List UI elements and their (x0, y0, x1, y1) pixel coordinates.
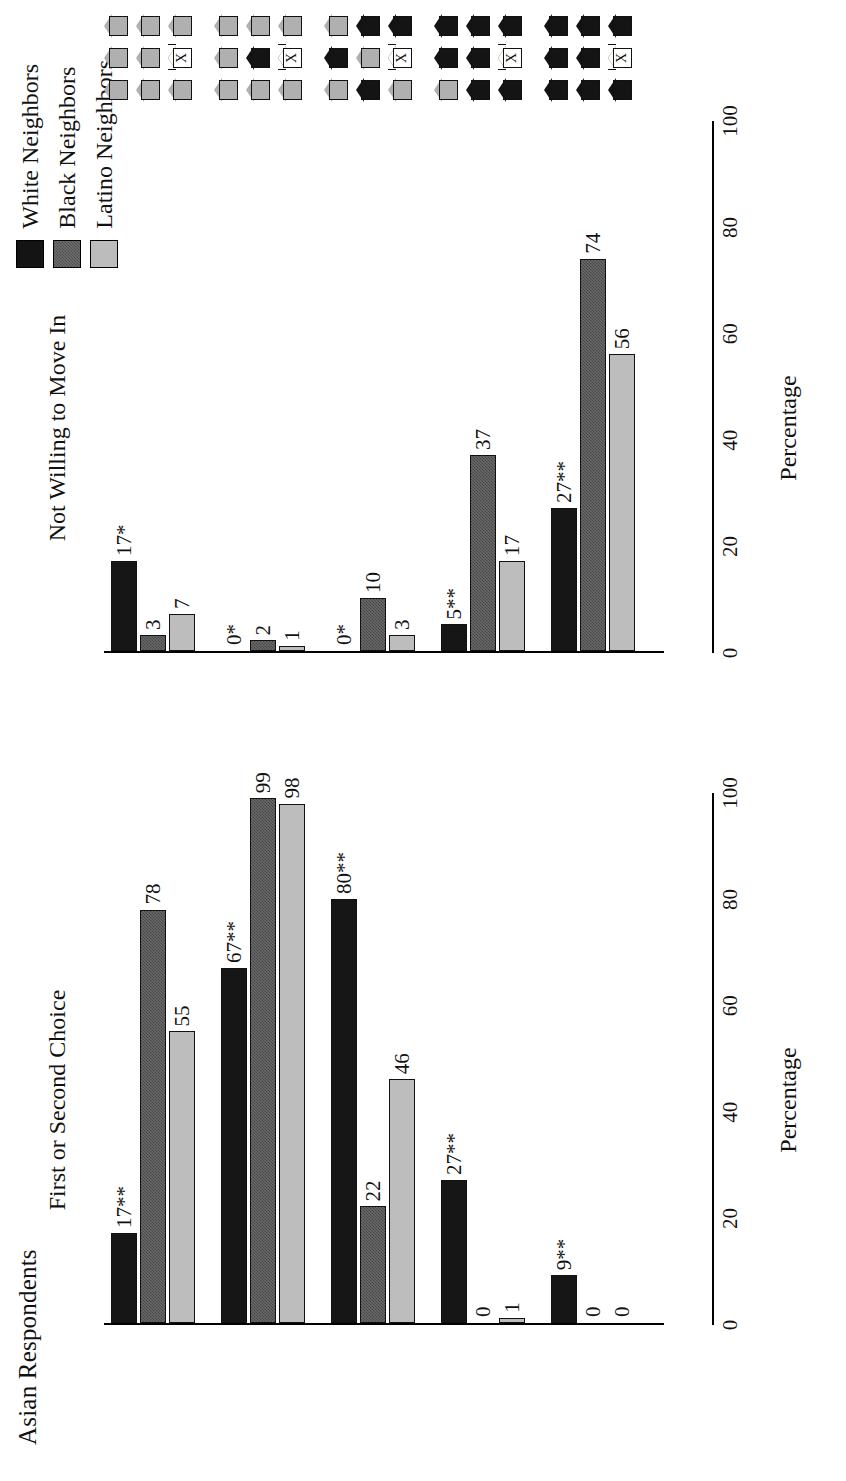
bar-value-label: 0 (610, 1307, 635, 1318)
bar-left-g5-w: 9** (551, 1275, 577, 1323)
bar-right-g3-l: 3 (389, 635, 415, 651)
legend-label-white: White Neighbors (17, 64, 44, 229)
bar-value-label: 27** (442, 1133, 467, 1175)
plot-area-left: 17**785567**999880**224627**019**00 (104, 793, 664, 1325)
house-icon-filled (576, 45, 602, 71)
bar-value-label: 2 (251, 625, 276, 636)
x-axis-tick: 0 (718, 648, 743, 659)
plot-area-right: 17*370*210*1035**371727**7456 (104, 121, 664, 653)
bar-left-g3-w: 80** (331, 899, 357, 1323)
page-title: Asian Respondents (14, 1249, 42, 1445)
bar-value-label: 5** (442, 588, 467, 620)
house-icon-gray (214, 13, 240, 39)
bar-value-label: 1 (500, 1302, 525, 1313)
bar-group: 17**7855 (108, 793, 204, 1323)
bar-value-label: 9** (552, 1239, 577, 1271)
bar-value-label: 3 (390, 620, 415, 631)
bar-value-label: 74 (581, 233, 606, 254)
bar-value-label: 98 (280, 778, 305, 799)
pictogram-grid-2 (214, 7, 310, 103)
bar-left-g3-l: 46 (389, 1079, 415, 1323)
house-icon-gray (136, 45, 162, 71)
house-icon-gray (168, 77, 194, 103)
house-icon-filled (356, 77, 382, 103)
house-icon-gray (136, 77, 162, 103)
bar-left-g1-l: 55 (169, 1032, 195, 1324)
bar-group: 67**9998 (218, 793, 314, 1323)
house-icon-filled (466, 77, 492, 103)
panel-heading-left: First or Second Choice (44, 789, 71, 1411)
house-icon-gray (324, 13, 350, 39)
bar-right-g4-b: 37 (470, 455, 496, 651)
house-icon-gray (434, 77, 460, 103)
bar-value-label: 55 (170, 1006, 195, 1027)
pictogram-grid-3 (324, 7, 420, 103)
x-axis-tick: 40 (718, 430, 743, 451)
x-axis-tick: 20 (718, 536, 743, 557)
bar-left-g4-w: 27** (441, 1180, 467, 1323)
bar-right-g2-l: 1 (279, 646, 305, 651)
house-icon-filled (498, 77, 524, 103)
x-axis-right: 020406080100 (712, 121, 714, 653)
house-icon-filled (608, 13, 634, 39)
bar-right-g1-b: 3 (140, 635, 166, 651)
x-axis-tick: 100 (718, 777, 743, 809)
bar-group: 9**00 (548, 793, 644, 1323)
bar-value-label: 7 (170, 598, 195, 609)
house-icon-respondent (278, 45, 304, 71)
bar-value-label: 17* (112, 524, 137, 556)
pictogram-grid-5 (544, 7, 640, 103)
bar-value-label: 0 (471, 1307, 496, 1318)
legend-item-white: White Neighbors (16, 60, 44, 268)
bar-value-label: 99 (251, 772, 276, 793)
bar-group: 5**3717 (438, 121, 534, 651)
bar-right-g2-b: 2 (250, 640, 276, 651)
x-axis-left: 020406080100 (712, 793, 714, 1325)
bar-value-label: 0* (222, 624, 247, 645)
bar-group: 27**7456 (548, 121, 644, 651)
panel-first-or-second-choice: First or Second Choice 17**785567**99988… (96, 789, 736, 1411)
bar-value-label: 80** (332, 852, 357, 894)
bar-value-label: 27** (552, 461, 577, 503)
house-icon-filled (434, 45, 460, 71)
bar-right-g4-w: 5** (441, 625, 467, 652)
bar-left-g2-b: 99 (250, 798, 276, 1323)
bar-value-label: 17 (500, 535, 525, 556)
x-axis-tick: 60 (718, 323, 743, 344)
pictogram-grid-4 (434, 7, 530, 103)
house-icon-gray (214, 45, 240, 71)
bar-group: 27**01 (438, 793, 534, 1323)
house-icon-gray (356, 45, 382, 71)
bar-value-label: 78 (141, 884, 166, 905)
house-icon-filled (544, 77, 570, 103)
bar-value-label: 3 (141, 620, 166, 631)
house-icon-filled (466, 13, 492, 39)
bar-right-g5-l: 56 (609, 354, 635, 651)
bar-left-g1-b: 78 (140, 910, 166, 1323)
house-icon-filled (246, 45, 272, 71)
x-axis-label-right: Percentage (775, 117, 802, 739)
panel-heading-right: Not Willing to Move In (44, 117, 71, 739)
bar-value-label: 1 (280, 630, 305, 641)
bar-right-g5-b: 74 (580, 259, 606, 651)
bar-value-label: 46 (390, 1053, 415, 1074)
bar-right-g5-w: 27** (551, 508, 577, 651)
bar-left-g2-l: 98 (279, 804, 305, 1323)
bar-right-g1-w: 17* (111, 561, 137, 651)
x-axis-label-left: Percentage (775, 789, 802, 1411)
house-icon-gray (388, 77, 414, 103)
house-icon-filled (576, 13, 602, 39)
bar-value-label: 22 (361, 1180, 386, 1201)
x-axis-tick: 0 (718, 1320, 743, 1331)
house-icon-filled (544, 45, 570, 71)
house-icon-respondent (388, 45, 414, 71)
house-icon-gray (168, 13, 194, 39)
x-axis-tick: 80 (718, 217, 743, 238)
x-axis-tick: 80 (718, 889, 743, 910)
bar-left-g3-b: 22 (360, 1206, 386, 1323)
house-icon-filled (324, 45, 350, 71)
house-icon-gray (246, 77, 272, 103)
x-axis-tick: 100 (718, 105, 743, 137)
house-icon-respondent (498, 45, 524, 71)
house-icon-filled (544, 13, 570, 39)
